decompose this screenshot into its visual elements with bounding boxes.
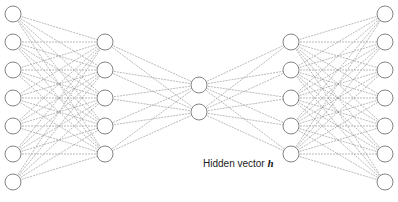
connection-edge: [105, 70, 199, 85]
node-decoder-hidden: [283, 146, 299, 162]
node-decoder-hidden: [283, 118, 299, 134]
connection-edge: [199, 85, 291, 154]
node-encoder-hidden: [97, 146, 113, 162]
node-input: [5, 62, 21, 78]
node-input: [5, 118, 21, 134]
connection-edge: [291, 14, 385, 42]
connection-edge: [199, 70, 291, 85]
node-output: [377, 118, 393, 134]
node-output: [377, 6, 393, 22]
connection-edge: [105, 112, 199, 126]
connection-edge: [105, 112, 199, 154]
node-input: [5, 146, 21, 162]
connection-edge: [105, 42, 199, 112]
label-symbol: h: [267, 157, 273, 169]
node-input: [5, 90, 21, 106]
node-output: [377, 62, 393, 78]
connection-edge: [291, 154, 385, 182]
connection-edge: [199, 112, 291, 126]
node-output: [377, 34, 393, 50]
connection-edge: [199, 42, 291, 112]
hidden-vector-label: Hidden vector h: [203, 157, 274, 169]
node-code: [191, 104, 207, 120]
connection-edge: [105, 98, 199, 112]
node-encoder-hidden: [97, 118, 113, 134]
connection-edge: [199, 85, 291, 98]
node-input: [5, 174, 21, 190]
node-code: [191, 77, 207, 93]
connection-edge: [13, 14, 105, 42]
node-output: [377, 174, 393, 190]
node-encoder-hidden: [97, 34, 113, 50]
label-text: Hidden vector: [203, 158, 267, 169]
node-input: [5, 34, 21, 50]
node-decoder-hidden: [283, 34, 299, 50]
node-encoder-hidden: [97, 90, 113, 106]
connection-edge: [199, 98, 291, 112]
network-graph: [0, 0, 398, 202]
connection-edge: [13, 154, 105, 182]
connection-edge: [105, 42, 199, 85]
connection-edge: [291, 14, 385, 154]
connection-edge: [199, 112, 291, 154]
connection-edge: [291, 126, 385, 154]
connection-edge: [105, 85, 199, 98]
node-output: [377, 90, 393, 106]
node-decoder-hidden: [283, 90, 299, 106]
connection-edge: [291, 14, 385, 98]
node-output: [377, 146, 393, 162]
connection-edge: [199, 42, 291, 85]
autoencoder-diagram: Hidden vector h: [0, 0, 398, 202]
node-encoder-hidden: [97, 62, 113, 78]
node-input: [5, 6, 21, 22]
connection-edge: [105, 85, 199, 154]
node-decoder-hidden: [283, 62, 299, 78]
